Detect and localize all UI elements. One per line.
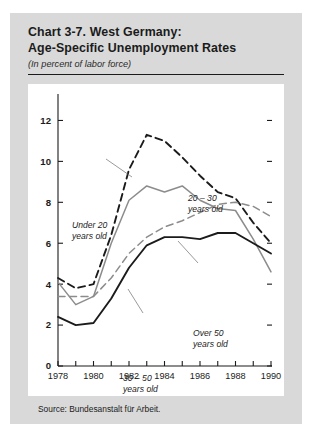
annotation-over-50-line-1: Over 50 xyxy=(193,328,228,339)
svg-text:1980: 1980 xyxy=(83,371,103,381)
annotation-leader-line xyxy=(106,159,132,177)
svg-text:8: 8 xyxy=(46,197,52,208)
annotation-under-20-line-1: Under 20 xyxy=(72,220,107,231)
chart-title-line-1: Chart 3-7. West Germany: xyxy=(28,25,286,41)
svg-text:0: 0 xyxy=(46,360,51,371)
annotation-leader-line xyxy=(178,241,198,263)
series-line xyxy=(58,233,271,325)
annotation-under-20: Under 20 years old xyxy=(72,220,107,241)
chart-title: Chart 3-7. West Germany: Age-Specific Un… xyxy=(28,25,286,56)
annotation-over-50: Over 50 years old xyxy=(193,328,228,349)
chart-subtitle: (In percent of labor force) xyxy=(28,59,286,69)
annotation-30-50: 30 – 50 years old xyxy=(123,373,158,394)
chart-svg: 0246810121978198019821984198619881990 xyxy=(28,84,284,396)
svg-text:6: 6 xyxy=(46,238,51,249)
title-divider xyxy=(28,74,284,75)
annotation-leader-line xyxy=(128,289,143,313)
annotation-20-30-line-2: years old xyxy=(188,204,223,215)
svg-text:1988: 1988 xyxy=(225,371,245,381)
chart-title-line-2: Age-Specific Unemployment Rates xyxy=(28,41,286,57)
annotation-20-30: 20 – 30 years old xyxy=(188,193,223,214)
svg-text:4: 4 xyxy=(46,279,52,290)
annotation-under-20-line-2: years old xyxy=(72,231,107,242)
annotation-over-50-line-2: years old xyxy=(193,339,228,350)
svg-text:12: 12 xyxy=(40,115,51,126)
annotation-30-50-line-2: years old xyxy=(123,384,158,395)
plot-area: 0246810121978198019821984198619881990 Un… xyxy=(28,84,284,396)
svg-text:1978: 1978 xyxy=(48,371,68,381)
svg-text:2: 2 xyxy=(46,319,51,330)
annotation-30-50-line-1: 30 – 50 xyxy=(123,373,158,384)
series-line xyxy=(58,135,271,288)
chart-source-note: Source: Bundesanstalt für Arbeit. xyxy=(38,404,160,414)
svg-text:1990: 1990 xyxy=(261,371,281,381)
annotation-20-30-line-1: 20 – 30 xyxy=(188,193,223,204)
svg-text:10: 10 xyxy=(40,156,51,167)
chart-figure: Chart 3-7. West Germany: Age-Specific Un… xyxy=(10,13,302,424)
svg-text:1986: 1986 xyxy=(190,371,210,381)
